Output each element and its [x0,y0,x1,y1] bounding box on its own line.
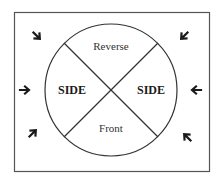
coin-orientation-diagram: Reverse Front SIDE SIDE [0,0,221,185]
arrow-bottom-right-icon [182,132,193,143]
arrow-middle-left-icon [20,87,29,94]
arrow-middle-right-icon [192,87,201,94]
label-reverse: Reverse [93,40,129,52]
label-front: Front [99,122,123,134]
label-side-left: SIDE [58,83,86,97]
arrow-bottom-left-icon [27,128,38,139]
label-side-right: SIDE [137,83,165,97]
arrow-top-right-icon [179,30,190,41]
arrow-top-left-icon [31,30,42,41]
